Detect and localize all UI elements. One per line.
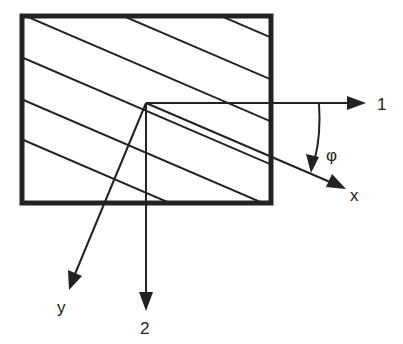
axis-2: 2 <box>139 103 153 338</box>
arrowhead-icon <box>68 270 82 290</box>
arrowhead-icon <box>306 154 319 173</box>
axis-1: 1 <box>146 95 386 114</box>
axis-2-label: 2 <box>140 319 149 338</box>
angle-phi: φ <box>306 103 337 173</box>
axis-y: y <box>57 103 146 317</box>
axis-x-label: x <box>350 186 359 205</box>
angle-phi-label: φ <box>326 146 337 165</box>
lamina-diagram: 1 2 x y φ <box>0 0 403 344</box>
axis-y-label: y <box>57 298 66 317</box>
axis-1-label: 1 <box>377 95 386 114</box>
fiber-hatching <box>0 0 400 302</box>
arrowhead-icon <box>139 292 153 311</box>
arrowhead-icon <box>326 174 346 189</box>
arrowhead-icon <box>347 96 366 110</box>
